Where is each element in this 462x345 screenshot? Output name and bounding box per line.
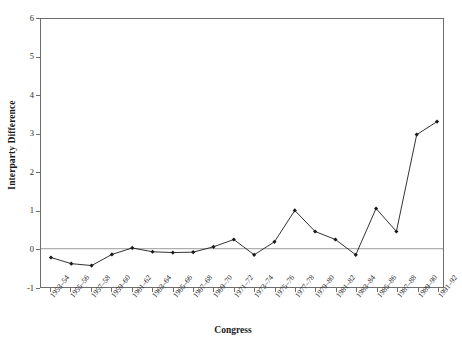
x-tick-mark-1987-88 [397, 288, 398, 292]
x-tick-mark-1985-86 [377, 288, 378, 292]
data-line-interparty-difference [51, 122, 437, 266]
x-tick-mark-1953-54 [50, 288, 51, 292]
y-tick-label--1: -1 [18, 283, 34, 293]
x-tick-mark-1989-90 [418, 288, 419, 292]
chart-page: Interparty Difference -10123456 1953–541… [0, 0, 462, 345]
x-tick-mark-1959-60 [111, 288, 112, 292]
y-tick-label-2: 2 [18, 167, 34, 177]
x-tick-mark-1961-62 [132, 288, 133, 292]
y-tick-label-6: 6 [18, 13, 34, 23]
y-tick-label-1: 1 [18, 205, 34, 215]
y-axis-title-text: Interparty Difference [7, 100, 17, 189]
data-point-markers [49, 120, 439, 268]
x-axis-title: Congress [0, 325, 462, 335]
x-tick-mark-1957-58 [91, 288, 92, 292]
x-tick-mark-1969-70 [213, 288, 214, 292]
data-point-1967-68 [191, 250, 195, 254]
x-axis-title-text: Congress [214, 325, 251, 335]
y-tick-mark--1 [36, 288, 40, 289]
y-tick-label-4: 4 [18, 90, 34, 100]
y-tick-label-5: 5 [18, 51, 34, 61]
data-point-1959-60 [110, 252, 114, 256]
data-point-1961-62 [130, 246, 134, 250]
x-tick-mark-1979-80 [315, 288, 316, 292]
x-tick-mark-1973-74 [254, 288, 255, 292]
chart-svg [41, 19, 443, 287]
data-point-1957-58 [90, 263, 94, 267]
x-tick-mark-1983-84 [356, 288, 357, 292]
x-tick-mark-1975-76 [275, 288, 276, 292]
y-tick-label-3: 3 [18, 128, 34, 138]
data-point-1955-56 [69, 262, 73, 266]
x-tick-mark-1967-68 [193, 288, 194, 292]
data-point-1953-54 [49, 255, 53, 259]
x-tick-mark-1977-78 [295, 288, 296, 292]
x-tick-mark-1955-56 [70, 288, 71, 292]
y-tick-label-0: 0 [18, 244, 34, 254]
x-tick-mark-1981-82 [336, 288, 337, 292]
x-tick-mark-1991-92 [438, 288, 439, 292]
x-tick-mark-1965-66 [173, 288, 174, 292]
plot-area [40, 18, 444, 288]
x-tick-mark-1963-64 [152, 288, 153, 292]
x-tick-mark-1971-72 [234, 288, 235, 292]
data-point-1963-64 [150, 250, 154, 254]
data-point-1965-66 [171, 250, 175, 254]
